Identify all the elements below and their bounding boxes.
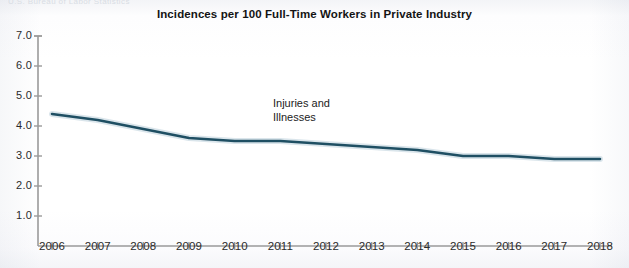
series-annotation-injuries-and-illnesses: Injuries and Illnesses: [273, 97, 330, 124]
x-axis-tick-label: 2013: [349, 240, 395, 252]
x-axis-tick-label: 2009: [166, 240, 212, 252]
chart-plot-area: [0, 0, 629, 268]
x-axis-tick-label: 2017: [531, 240, 577, 252]
y-axis-tick-label: 1.0: [2, 209, 32, 221]
x-axis-tick-label: 2006: [29, 240, 75, 252]
y-axis-tick-label: 5.0: [2, 89, 32, 101]
y-axis-tick-label: 3.0: [2, 149, 32, 161]
x-axis-tick-label: 2015: [440, 240, 486, 252]
x-axis-tick-label: 2008: [120, 240, 166, 252]
y-axis-tick-label: 6.0: [2, 59, 32, 71]
x-axis-tick-label: 2014: [394, 240, 440, 252]
x-axis-tick-label: 2010: [212, 240, 258, 252]
x-axis-tick-label: 2007: [75, 240, 121, 252]
x-axis-tick-label: 2016: [486, 240, 532, 252]
y-axis-tick-label: 7.0: [2, 29, 32, 41]
x-axis-tick-label: 2011: [257, 240, 303, 252]
chart-figure: U.S. Bureau of Labor Statistics Incidenc…: [0, 0, 629, 268]
x-axis-tick-label: 2012: [303, 240, 349, 252]
y-axis-tick-label: 4.0: [2, 119, 32, 131]
x-axis-tick-label: 2018: [577, 240, 623, 252]
y-axis-tick-label: 2.0: [2, 179, 32, 191]
